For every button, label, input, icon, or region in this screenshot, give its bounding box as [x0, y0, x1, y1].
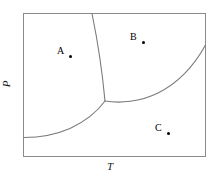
region-label-c: C: [155, 122, 162, 133]
region-point-b-dot: [142, 41, 145, 44]
x-axis-label: T: [107, 160, 113, 172]
phase-diagram-figure: A B C P T: [0, 0, 214, 180]
y-axis-label: P: [0, 81, 12, 88]
region-point-c-dot: [167, 132, 170, 135]
region-label-a: A: [57, 45, 64, 56]
phase-diagram-canvas: [0, 0, 214, 180]
region-point-a-dot: [69, 55, 72, 58]
region-label-b: B: [130, 31, 137, 42]
